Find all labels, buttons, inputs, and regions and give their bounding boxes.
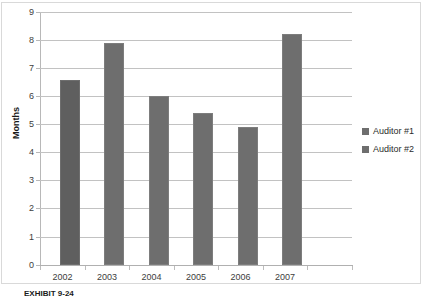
x-tick-mark-3 [174, 266, 175, 270]
y-tick-label-7: 7 [8, 64, 34, 73]
x-tick-mark-7 [352, 266, 353, 270]
bar-2007[interactable] [282, 34, 302, 265]
x-tick-label-2004: 2004 [129, 272, 174, 282]
y-tick-label-0: 0 [8, 261, 34, 270]
y-tick-label-3: 3 [8, 176, 34, 185]
bar-2005[interactable] [193, 113, 213, 265]
legend-label-auditor-1: Auditor #1 [373, 127, 414, 136]
x-tick-mark-4 [218, 266, 219, 270]
bar-2004[interactable] [149, 96, 169, 265]
x-tick-label-2006: 2006 [218, 272, 263, 282]
x-tick-mark-2 [129, 266, 130, 270]
x-tick-mark-0 [40, 266, 41, 270]
bar-2002[interactable] [60, 80, 80, 265]
x-tick-mark-1 [85, 266, 86, 270]
x-tick-mark-5 [263, 266, 264, 270]
y-tick-label-1: 1 [8, 233, 34, 242]
x-tick-label-2002: 2002 [40, 272, 85, 282]
legend-entry-auditor-2[interactable]: Auditor #2 [362, 144, 432, 154]
y-tick-label-2: 2 [8, 204, 34, 213]
y-axis-title: Months [11, 93, 21, 153]
legend-swatch-icon-auditor-2 [362, 146, 369, 153]
x-tick-mark-6 [307, 266, 308, 270]
y-tick-label-9: 9 [8, 8, 34, 17]
gridline-7 [40, 68, 352, 69]
legend-label-auditor-2: Auditor #2 [373, 145, 414, 154]
x-tick-label-2003: 2003 [85, 272, 129, 282]
legend-entry-auditor-1[interactable]: Auditor #1 [362, 126, 432, 136]
bar-chart-figure: 9 8 7 6 5 4 3 2 1 0 Months [0, 0, 433, 298]
bar-2006[interactable] [238, 127, 258, 265]
gridline-9 [40, 12, 352, 13]
x-tick-label-2007: 2007 [263, 272, 307, 282]
plot-area [40, 12, 352, 265]
chart-legend: Auditor #1 Auditor #2 [362, 126, 432, 162]
x-tick-label-2005: 2005 [174, 272, 218, 282]
figure-caption: EXHIBIT 9-24 [24, 289, 424, 298]
gridline-8 [40, 40, 352, 41]
bar-2003[interactable] [104, 43, 124, 265]
y-tick-label-8: 8 [8, 36, 34, 45]
legend-swatch-icon-auditor-1 [362, 128, 369, 135]
gridline-6 [40, 96, 352, 97]
caption-label: EXHIBIT 9-24 [24, 289, 74, 298]
